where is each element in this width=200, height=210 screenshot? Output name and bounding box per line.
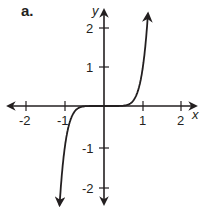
- y-tick-label: 2: [86, 21, 93, 36]
- x-tick-label: 1: [139, 113, 146, 128]
- x-axis-label: x: [191, 107, 199, 122]
- x-tick-label: -2: [19, 113, 31, 128]
- x-tick-label: 2: [177, 113, 184, 128]
- y-tick-label: 1: [86, 60, 93, 75]
- y-axis-label: y: [91, 3, 100, 18]
- y-tick-label: -2: [82, 181, 94, 196]
- y-tick-label: -1: [82, 141, 94, 156]
- x-tick-label: -1: [57, 113, 69, 128]
- function-graph: -2 -1 1 2 2 1 -1 -2 x y: [0, 0, 200, 210]
